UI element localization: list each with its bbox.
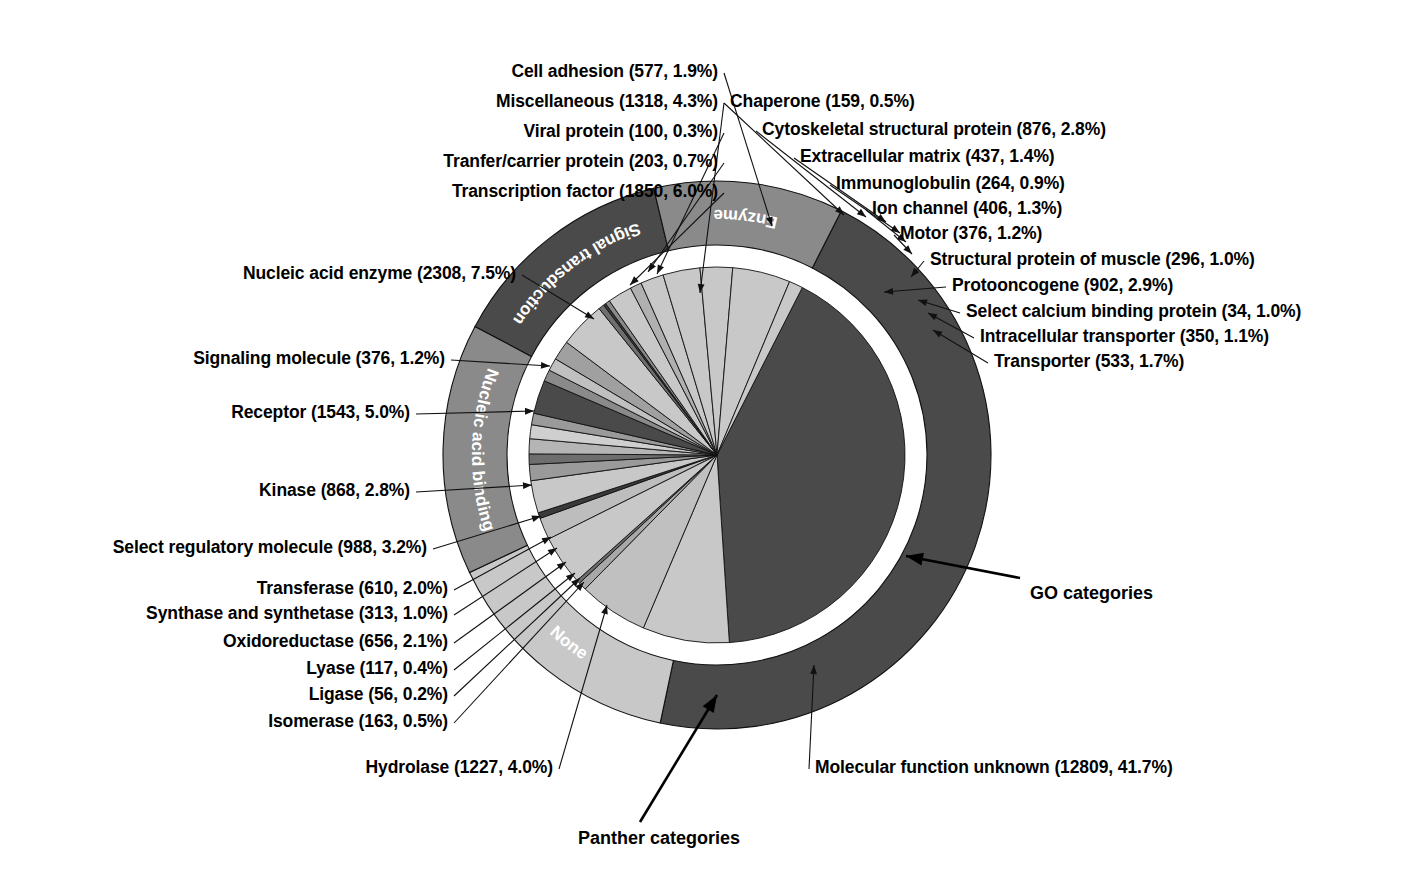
- callout-select_calcium: Select calcium binding protein (34, 1.0%…: [966, 302, 1301, 320]
- callout-immunoglobulin: Immunoglobulin (264, 0.9%): [836, 174, 1065, 192]
- callout-transferase: Transferase (610, 2.0%): [257, 579, 448, 597]
- leader-arrowhead: [657, 264, 664, 274]
- leader-arrowhead: [557, 562, 566, 570]
- callout-protooncogene: Protooncogene (902, 2.9%): [952, 276, 1173, 294]
- callout-signaling_molecule: Signaling molecule (376, 1.2%): [193, 349, 445, 367]
- callout-mol_func_unknown: Molecular function unknown (12809, 41.7%…: [815, 758, 1173, 776]
- go-ring-segment: [443, 326, 532, 572]
- annotation-go-categories: GO categories: [1030, 583, 1153, 604]
- leader-arrowhead: [523, 482, 532, 489]
- callout-isomerase: Isomerase (163, 0.5%): [268, 712, 448, 730]
- callout-lyase: Lyase (117, 0.4%): [306, 659, 448, 677]
- callout-synthase: Synthase and synthetase (313, 1.0%): [146, 604, 448, 622]
- callout-nucleic_acid_enzyme: Nucleic acid enzyme (2308, 7.5%): [243, 264, 516, 282]
- callout-kinase: Kinase (868, 2.8%): [259, 481, 410, 499]
- callout-cytoskeletal: Cytoskeletal structural protein (876, 2.…: [762, 120, 1106, 138]
- callout-miscellaneous: Miscellaneous (1318, 4.3%): [496, 92, 718, 110]
- panther-categories-pie: [529, 267, 905, 643]
- leader-arrowhead: [525, 408, 534, 415]
- leader-arrowhead: [857, 209, 866, 217]
- leader-arrowhead: [891, 225, 900, 233]
- callout-hydrolase: Hydrolase (1227, 4.0%): [366, 758, 553, 776]
- callout-ion_channel: Ion channel (406, 1.3%): [872, 199, 1062, 217]
- figure-canvas: NoneNucleic acid bindingSignal transduct…: [0, 0, 1402, 870]
- callout-ligase: Ligase (56, 0.2%): [309, 685, 448, 703]
- callout-transporter: Transporter (533, 1.7%): [994, 352, 1184, 370]
- leader-arrowhead: [601, 605, 608, 615]
- callout-select_regulatory: Select regulatory molecule (988, 3.2%): [113, 538, 427, 556]
- leader-arrowhead: [531, 515, 541, 522]
- callout-motor: Motor (376, 1.2%): [900, 224, 1042, 242]
- callout-cell_adhesion: Cell adhesion (577, 1.9%): [511, 62, 718, 80]
- callout-chaperone: Chaperone (159, 0.5%): [730, 92, 915, 110]
- callout-tranfer_carrier: Tranfer/carrier protein (203, 0.7%): [443, 152, 718, 170]
- leader-arrowhead: [541, 362, 550, 369]
- callout-receptor: Receptor (1543, 5.0%): [231, 403, 410, 421]
- callout-extracellular_matrix: Extracellular matrix (437, 1.4%): [800, 147, 1055, 165]
- callout-struct_muscle: Structural protein of muscle (296, 1.0%): [930, 250, 1255, 268]
- callout-intracellular_tr: Intracellular transporter (350, 1.1%): [980, 327, 1269, 345]
- callout-oxidoreductase: Oxidoreductase (656, 2.1%): [223, 632, 448, 650]
- callout-transcription_factor: Transcription factor (1850, 6.0%): [452, 182, 718, 200]
- annotation-panther-categories: Panther categories: [578, 828, 740, 849]
- callout-viral_protein: Viral protein (100, 0.3%): [523, 122, 718, 140]
